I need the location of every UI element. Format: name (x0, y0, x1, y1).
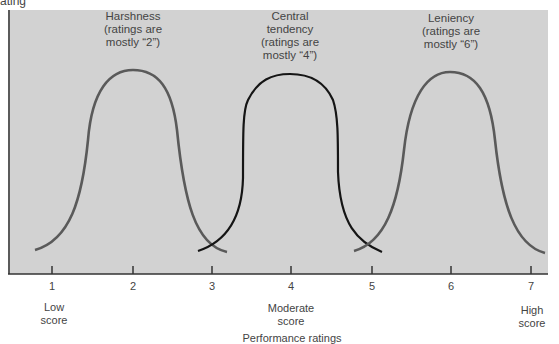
x-axis-ticks (52, 266, 531, 274)
caption-line: (ratings are (401, 25, 501, 38)
caption-title: Leniency (401, 12, 501, 25)
tick-label-2: 2 (123, 280, 143, 292)
caption-line: (ratings are (83, 23, 183, 36)
anchor-line: Low (14, 301, 94, 314)
moderate-score-label: Moderate score (251, 302, 331, 328)
x-axis-title: Performance ratings (232, 332, 352, 344)
leniency-curve (354, 72, 545, 253)
tick-label-6: 6 (441, 280, 461, 292)
anchor-line: Moderate (251, 302, 331, 315)
caption-title: Central (240, 10, 340, 23)
leniency-caption: Leniency (ratings are mostly “6”) (401, 12, 501, 51)
anchor-line: score (251, 315, 331, 328)
caption-title: Harshness (83, 10, 183, 23)
harshness-caption: Harshness (ratings are mostly “2”) (83, 10, 183, 49)
central-tendency-caption: Central tendency (ratings are mostly “4”… (240, 10, 340, 62)
caption-line: mostly “2”) (83, 36, 183, 49)
anchor-line: High (492, 304, 559, 317)
caption-line: mostly “6”) (401, 38, 501, 51)
harshness-curve (35, 70, 227, 252)
tick-label-4: 4 (281, 280, 301, 292)
caption-line: (ratings are (240, 36, 340, 49)
tick-label-3: 3 (202, 280, 222, 292)
low-score-label: Low score (14, 301, 94, 327)
anchor-line: score (492, 317, 559, 330)
caption-line: tendency (240, 23, 340, 36)
caption-line: mostly “4”) (240, 49, 340, 62)
central-tendency-curve (198, 74, 382, 252)
tick-label-5: 5 (362, 280, 382, 292)
tick-label-1: 1 (42, 280, 62, 292)
tick-label-7: 7 (521, 280, 541, 292)
anchor-line: score (14, 314, 94, 327)
high-score-label: High score (492, 304, 559, 330)
